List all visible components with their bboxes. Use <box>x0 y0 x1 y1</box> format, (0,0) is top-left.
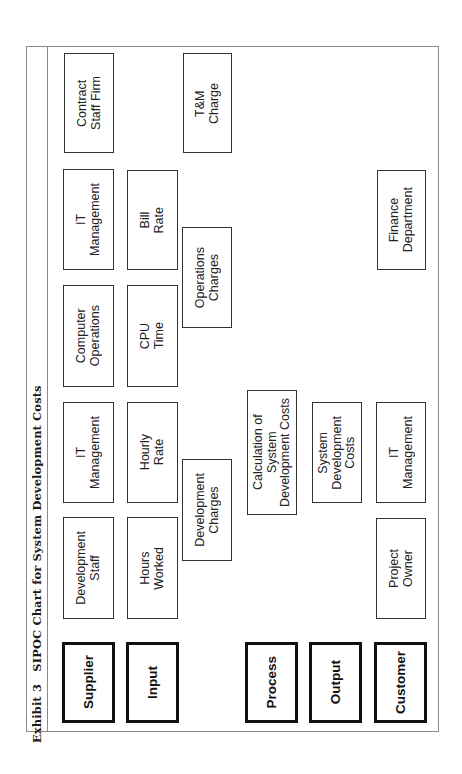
input-cpu-time: CPU Time <box>127 285 178 387</box>
exhibit-title: Exhibit 3 SIPOC Chart for System Develop… <box>27 385 47 729</box>
charge-development-charges: Development Charges <box>182 459 232 561</box>
supplier-label: IT Management <box>75 183 102 256</box>
supplier-label: Development Staff <box>75 531 102 605</box>
input-label: Hours Worked <box>139 547 166 590</box>
output-system-development-costs: System Development Costs <box>312 402 362 503</box>
charge-label: Development Charges <box>194 473 221 547</box>
customer-it-management: IT Management <box>376 402 426 503</box>
output-label: System Development Costs <box>317 416 358 490</box>
header-process: Process <box>245 642 298 723</box>
header-customer: Customer <box>374 642 427 723</box>
supplier-label: Contract Staff Firm <box>76 76 103 130</box>
charge-operations-charges: Operations Charges <box>182 227 232 328</box>
customer-label: IT Management <box>388 416 415 489</box>
customer-label: Finance Department <box>388 187 415 252</box>
header-supplier: Supplier <box>62 642 115 723</box>
header-process-label: Process <box>265 656 279 709</box>
customer-finance-department: Finance Department <box>377 170 426 270</box>
input-hourly-rate: Hourly Rate <box>127 402 178 503</box>
customer-label: Project Owner <box>388 549 415 588</box>
title-divider <box>47 46 48 732</box>
header-input-label: Input <box>146 666 160 699</box>
header-customer-label: Customer <box>394 651 408 714</box>
supplier-it-management: IT Management <box>63 402 114 503</box>
supplier-contract-staff-firm: Contract Staff Firm <box>64 53 114 153</box>
supplier-development-staff: Development Staff <box>63 517 114 619</box>
input-label: CPU Time <box>139 322 166 349</box>
charge-label: T&M Charge <box>194 83 221 124</box>
charge-label: Operations Charges <box>194 247 221 308</box>
input-label: Bill Rate <box>139 207 166 233</box>
supplier-it-management-2: IT Management <box>63 169 114 270</box>
supplier-computer-operations: Computer Operations <box>63 285 114 387</box>
input-label: Hourly Rate <box>139 434 166 470</box>
customer-project-owner: Project Owner <box>376 518 426 619</box>
header-output-label: Output <box>329 660 343 704</box>
input-bill-rate: Bill Rate <box>127 170 178 270</box>
supplier-label: IT Management <box>75 416 102 489</box>
header-input: Input <box>126 642 179 723</box>
input-hours-worked: Hours Worked <box>127 517 178 619</box>
process-calculation: Calculation of System Development Costs <box>247 390 297 515</box>
process-label: Calculation of System Development Costs <box>252 398 293 507</box>
supplier-label: Computer Operations <box>75 305 102 366</box>
header-supplier-label: Supplier <box>82 655 96 709</box>
charge-tm-charge: T&M Charge <box>183 53 232 153</box>
header-output: Output <box>309 642 362 723</box>
